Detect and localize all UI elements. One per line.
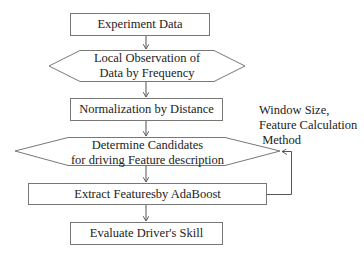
node-label-line: Determine Candidates xyxy=(15,138,280,153)
node-label-line: Extract Featuresby AdaBoost xyxy=(28,187,267,202)
node-label-line: Data by Frequency xyxy=(49,66,245,81)
node-extract-features: Extract Featuresby AdaBoost xyxy=(28,187,267,202)
node-experiment-data: Experiment Data xyxy=(70,17,210,32)
node-label-line: Experiment Data xyxy=(70,17,210,32)
annotation-line: Window Size, xyxy=(259,103,357,118)
node-evaluate-skill: Evaluate Driver's Skill xyxy=(70,226,223,241)
node-label-line: Evaluate Driver's Skill xyxy=(70,226,223,241)
node-normalization: Normalization by Distance xyxy=(70,102,223,117)
node-label-line: for driving Feature description xyxy=(15,153,280,168)
node-local-observation: Local Observation of Data by Frequency xyxy=(49,51,245,81)
node-label-line: Local Observation of xyxy=(49,51,245,66)
annotation-line: Method xyxy=(259,133,357,148)
node-determine-candidates: Determine Candidates for driving Feature… xyxy=(15,138,280,168)
annotation-line: Feature Calculation xyxy=(259,118,357,133)
feedback-annotation: Window Size, Feature Calculation Method xyxy=(259,103,357,148)
node-label-line: Normalization by Distance xyxy=(70,102,223,117)
